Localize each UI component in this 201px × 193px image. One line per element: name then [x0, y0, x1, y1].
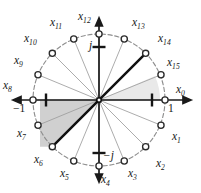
- origin-point: [97, 98, 102, 103]
- marker-x4: [96, 163, 102, 169]
- point-label-x14: x14: [158, 33, 171, 47]
- point-label-x0: x0: [176, 84, 185, 98]
- marker-x13: [121, 36, 127, 42]
- point-label-x11: x11: [50, 17, 62, 31]
- axis-label-minus-j: −j: [103, 150, 114, 162]
- marker-x3: [121, 158, 127, 164]
- marker-x11: [71, 36, 77, 42]
- marker-x5: [71, 158, 77, 164]
- point-label-x13: x13: [132, 17, 145, 31]
- point-label-x6: x6: [34, 154, 43, 168]
- marker-x6: [49, 144, 55, 150]
- marker-x9: [35, 72, 41, 78]
- unit-circle-canvas: [0, 0, 201, 193]
- marker-x14: [143, 50, 149, 56]
- point-label-x3: x3: [128, 168, 137, 182]
- point-label-x4: x4: [101, 174, 110, 188]
- marker-x12: [96, 31, 102, 37]
- marker-x8: [30, 97, 36, 103]
- marker-x15: [158, 72, 164, 78]
- marker-x1: [158, 122, 164, 128]
- shaded-wedges: [40, 76, 160, 147]
- point-label-x2: x2: [156, 158, 165, 172]
- point-label-x7: x7: [17, 128, 26, 142]
- point-label-x10: x10: [24, 33, 37, 47]
- point-label-x8: x8: [3, 80, 12, 94]
- marker-x7: [35, 122, 41, 128]
- point-label-x12: x12: [78, 11, 91, 25]
- marker-x10: [49, 50, 55, 56]
- point-label-x9: x9: [14, 55, 23, 69]
- axis-label-minus-one: −1: [13, 103, 25, 115]
- wedge-main-lower-left: [40, 100, 99, 147]
- y-axis-arrow-up: [96, 18, 103, 26]
- point-label-x1: x1: [172, 131, 181, 145]
- axis-label-one: 1: [168, 103, 174, 115]
- axis-label-j: j: [89, 40, 92, 52]
- point-label-x5: x5: [60, 168, 69, 182]
- marker-x2: [143, 144, 149, 150]
- unit-circle-figure: x0 x1 x2 x3 x4 x5 x6 x7 x8 x9 x10 x11 x1…: [0, 0, 201, 193]
- point-label-x15: x15: [167, 57, 180, 71]
